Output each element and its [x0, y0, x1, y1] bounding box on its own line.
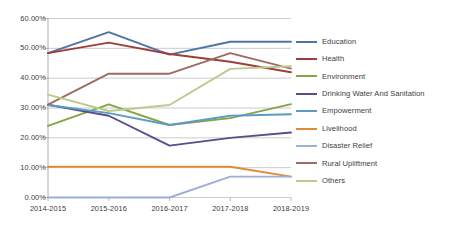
legend-item[interactable]: Environment	[296, 68, 453, 85]
legend-color-swatch	[296, 128, 317, 130]
legend-item-label: Drinking Water And Sanitation	[322, 90, 424, 98]
legend-item[interactable]: Empowerment	[296, 103, 453, 120]
y-axis-tick-label: 40.00%	[2, 74, 46, 81]
legend-item-label: Others	[322, 177, 345, 185]
legend-item[interactable]: Rural Upliftment	[296, 155, 453, 172]
legend-item[interactable]: Livelihood	[296, 120, 453, 137]
x-axis-tick-label: 2018-2019	[273, 205, 309, 212]
x-axis-tick-label: 2017-2018	[212, 205, 248, 212]
x-axis: 2014-20152015-20162016-20172017-20182018…	[48, 200, 292, 216]
y-axis-tick-label: 60.00%	[2, 15, 46, 22]
legend-color-swatch	[296, 180, 317, 182]
y-axis-tick-label: 50.00%	[2, 44, 46, 51]
legend-color-swatch	[296, 145, 317, 147]
series-line-rural-upliftment	[48, 53, 291, 105]
x-axis-tick-label: 2015-2016	[91, 205, 127, 212]
legend-item[interactable]: Others	[296, 172, 453, 189]
chart-legend: EducationHealthEnvironmentDrinking Water…	[296, 33, 453, 190]
y-axis-tick-label: 0.00%	[2, 194, 46, 201]
chart-container: 0.00%10.00%20.00%30.00%40.00%50.00%60.00…	[0, 0, 453, 225]
y-axis-tick-label: 10.00%	[2, 164, 46, 171]
series-line-disaster-relief	[48, 177, 291, 198]
y-axis: 0.00%10.00%20.00%30.00%40.00%50.00%60.00…	[0, 0, 46, 225]
legend-item-label: Disaster Relief	[322, 142, 372, 150]
y-axis-tick-label: 20.00%	[2, 134, 46, 141]
legend-item-label: Environment	[322, 73, 365, 81]
legend-item[interactable]: Education	[296, 33, 453, 50]
x-axis-tick-label: 2014-2015	[30, 205, 66, 212]
y-axis-tick-label: 30.00%	[2, 104, 46, 111]
legend-color-swatch	[296, 162, 317, 164]
legend-item-label: Health	[322, 55, 344, 63]
legend-item[interactable]: Disaster Relief	[296, 137, 453, 154]
legend-item-label: Rural Upliftment	[322, 160, 377, 168]
series-line-livelihood	[48, 167, 291, 177]
legend-item[interactable]: Health	[296, 50, 453, 67]
legend-color-swatch	[296, 58, 317, 60]
legend-color-swatch	[296, 75, 317, 77]
legend-item[interactable]: Drinking Water And Sanitation	[296, 85, 453, 102]
x-axis-tick-label: 2016-2017	[151, 205, 187, 212]
legend-color-swatch	[296, 93, 317, 95]
series-line-education	[48, 32, 291, 54]
legend-item-label: Livelihood	[322, 125, 357, 133]
legend-color-swatch	[296, 110, 317, 112]
legend-color-swatch	[296, 41, 317, 43]
legend-item-label: Empowerment	[322, 107, 372, 115]
legend-item-label: Education	[322, 38, 356, 46]
